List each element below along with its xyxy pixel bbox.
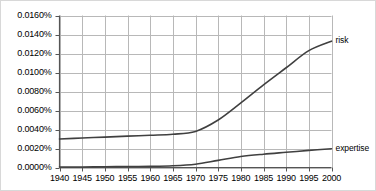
y-axis-tick-label: 0.0040% xyxy=(17,124,51,134)
ngram-chart: 0.0000%0.0020%0.0040%0.0060%0.0080%0.010… xyxy=(0,0,376,191)
y-axis-tick-label: 0.0060% xyxy=(17,105,51,115)
y-axis-tick-label: 0.0100% xyxy=(17,67,51,77)
plot-area xyxy=(1,1,376,191)
tick-marks xyxy=(56,17,333,172)
vertical-gridlines xyxy=(61,16,333,168)
horizontal-gridlines xyxy=(60,17,332,169)
y-axis-tick-label: 0.0000% xyxy=(17,162,51,172)
y-axis-tick-label: 0.0080% xyxy=(17,86,51,96)
axis-lines xyxy=(60,16,332,168)
series-label-expertise: expertise xyxy=(336,143,370,153)
series-lines xyxy=(60,41,332,167)
y-axis-tick-label: 0.0120% xyxy=(17,48,51,58)
y-axis-tick-label: 0.0160% xyxy=(17,10,51,20)
y-axis-tick-label: 0.0020% xyxy=(17,143,51,153)
y-axis-tick-label: 0.0140% xyxy=(17,29,51,39)
series-label-risk: risk xyxy=(336,35,349,45)
x-axis-tick-label: 2000 xyxy=(319,173,345,183)
